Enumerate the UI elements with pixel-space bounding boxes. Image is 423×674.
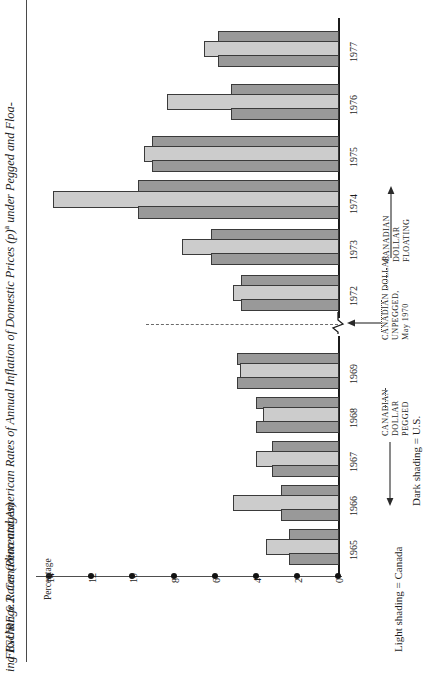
- bar-us-1973-b: [211, 253, 339, 265]
- annotation-floating-arrow: [386, 186, 396, 258]
- axis-break-dashed-line: [146, 324, 338, 325]
- annotation-pegged-line1: CANADIAN: [381, 389, 391, 436]
- year-label-1968: 1968: [348, 408, 359, 428]
- bar-us-1972-b: [241, 299, 339, 311]
- annotation-unpegged-line1: CANADIAN DOLLAR: [381, 255, 391, 340]
- axis-tick-label-0: 0: [334, 578, 345, 583]
- year-label-1973: 1973: [348, 240, 359, 260]
- bar-us-1968-b: [256, 421, 339, 433]
- bar-us-1967-b: [272, 465, 339, 477]
- year-label-1975: 1975: [348, 147, 359, 167]
- bar-us-1975-b: [152, 160, 339, 172]
- axis-break-mark: [331, 312, 345, 334]
- bar-us-1976-b: [231, 108, 339, 120]
- annotation-unpegged-line2: UNPEGGED,: [391, 290, 401, 340]
- bar-us-1977-b: [218, 55, 339, 67]
- legend-light-canada: Light shading = Canada: [392, 547, 404, 653]
- year-label-1977: 1977: [348, 42, 359, 62]
- year-label-1966: 1966: [348, 496, 359, 516]
- year-label-1974: 1974: [348, 194, 359, 214]
- legend-dark-us: Dark shading = U.S.: [410, 416, 422, 506]
- bar-us-1965-b: [289, 553, 339, 565]
- axis-tick-label-10: 10: [128, 573, 139, 583]
- axis-tick-label-4: 4: [252, 578, 263, 583]
- annotation-unpegged-dotted-lead: [381, 300, 382, 332]
- year-label-1965: 1965: [348, 540, 359, 560]
- bar-us-1966-b: [281, 509, 339, 521]
- year-label-1972: 1972: [348, 286, 359, 306]
- axis-tick-label-2: 2: [293, 578, 304, 583]
- bar-us-1974-b: [138, 206, 339, 219]
- bar-us-1969-b: [237, 377, 339, 389]
- annotation-unpegged-arrow: [347, 318, 381, 328]
- year-label-1976: 1976: [348, 95, 359, 115]
- year-label-1967: 1967: [348, 452, 359, 472]
- year-label-1969: 1969: [348, 364, 359, 384]
- axis-tick-label-6: 6: [211, 578, 222, 583]
- axis-tick-label-12: 12: [87, 573, 98, 583]
- annotation-pegged-line2: DOLLAR: [391, 400, 401, 436]
- axis-tick-label-8: 8: [170, 578, 181, 583]
- annotation-floating-line3: FLOATING: [402, 219, 412, 262]
- value-axis-title: Percentage: [43, 558, 53, 600]
- annotation-pegged-dotted-lead: [385, 388, 386, 410]
- annotation-pegged-arrow: [385, 442, 395, 506]
- annotation-unpegged-line3: May 1970: [401, 303, 411, 340]
